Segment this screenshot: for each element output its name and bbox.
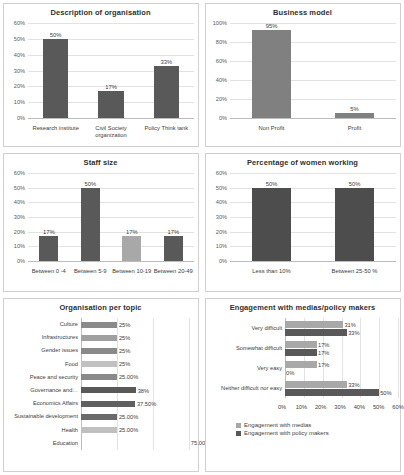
bar-value-label: 17% <box>105 84 117 90</box>
plot-area: Culture25%Infrastructures25%Gender issue… <box>6 318 196 450</box>
bar-row: Very easy17%0% <box>208 358 398 378</box>
legend-item[interactable]: Engagement with policy makers <box>236 430 400 436</box>
category-label: Governance and… <box>6 387 81 394</box>
category-label: Health <box>6 427 81 434</box>
bar-value-label: 17% <box>126 229 138 235</box>
category-label: Neither difficult nor easy <box>208 385 285 392</box>
bar <box>252 30 290 118</box>
y-axis-tick: 10% <box>206 243 227 249</box>
gridline <box>117 437 118 450</box>
bar-row: Peace and security25.00% <box>6 371 196 384</box>
plot-area: 0%20%40%60%80%100%95%5% <box>230 23 396 118</box>
bar-row: Sustainable development25.00% <box>6 410 196 423</box>
bar-value-label: 31% <box>344 322 355 328</box>
bar-value-label: 25% <box>119 335 130 341</box>
category-label: Peace and security <box>6 374 81 381</box>
bar-track: 37.50% <box>81 397 196 410</box>
bar <box>164 236 183 261</box>
bar-row: Economics Affairs37.50% <box>6 397 196 410</box>
y-axis-tick: 100% <box>206 20 227 26</box>
bar <box>285 389 379 396</box>
bar-value-label: 50% <box>380 390 391 396</box>
category-label: Education <box>6 440 81 447</box>
bar-track: 25.00% <box>81 410 196 423</box>
gridline <box>342 338 343 358</box>
bar-track: 25% <box>81 318 196 331</box>
category-label: Sustainable development <box>6 413 81 420</box>
bar-value-label: 37.50% <box>137 401 156 407</box>
gridline <box>379 318 380 338</box>
chart-panel-engagement-with-medias-policy-makers: Engagement with medias/policy makers Ver… <box>202 295 404 475</box>
bar <box>285 341 317 348</box>
bar <box>285 381 347 388</box>
gridline <box>189 384 190 397</box>
bar <box>285 349 317 356</box>
bar-value-label: 25% <box>119 348 130 354</box>
gridline <box>398 358 399 378</box>
chart-panel-percentage-of-women-working: Percentage of women working 0%10%20%30%4… <box>202 150 404 295</box>
gridline <box>153 358 154 371</box>
bar-value-label: 25.00% <box>119 427 138 433</box>
bar <box>81 414 117 420</box>
gridline <box>189 358 190 371</box>
bar-value-label: 17% <box>167 229 179 235</box>
bar <box>285 361 317 368</box>
bar-track: 31%33% <box>285 318 398 338</box>
bar-row: Food25% <box>6 358 196 371</box>
gridline <box>153 344 154 357</box>
plot-area: Very difficult31%33%Somewhat difficult17… <box>208 318 398 398</box>
chart-legend: Engagement with mediasEngagement with po… <box>206 420 400 436</box>
bar-row: Gender issues25% <box>6 344 196 357</box>
y-axis-tick: 0% <box>4 115 25 121</box>
bars-container: 95%5% <box>230 23 396 118</box>
gridline <box>153 437 154 450</box>
bar-track: 25% <box>81 331 196 344</box>
chart-frame: Engagement with medias/policy makers Ver… <box>205 298 401 472</box>
gridline <box>117 424 118 437</box>
chart-frame: Organisation per topic Culture25%Infrast… <box>3 298 199 472</box>
bar-value-label: 50% <box>84 181 96 187</box>
bar-track: 25.00% <box>81 424 196 437</box>
axis-line <box>230 261 396 262</box>
y-axis-tick: 60% <box>4 170 25 176</box>
x-axis-label: Less than 10% <box>230 268 313 275</box>
gridline <box>379 338 380 358</box>
bar <box>81 374 117 380</box>
bar <box>285 321 343 328</box>
gridline <box>153 410 154 423</box>
bar-row: Health25.00% <box>6 424 196 437</box>
x-axis-label: Between 25-50 % <box>313 268 396 275</box>
bar <box>81 387 136 393</box>
legend-item[interactable]: Engagement with medias <box>236 422 400 428</box>
bar-group: 50% <box>313 173 396 261</box>
bar-group: 33% <box>139 23 194 118</box>
gridline <box>117 344 118 357</box>
bar <box>81 322 117 328</box>
gridline <box>117 410 118 423</box>
bar-group: 95% <box>230 23 313 118</box>
bar-group: 17% <box>111 173 153 261</box>
gridline <box>153 331 154 344</box>
x-axis-label: Between 5-9 <box>70 268 112 275</box>
bar-group: 17% <box>28 173 70 261</box>
x-axis-tick: 20% <box>315 404 326 410</box>
gridline <box>189 318 190 331</box>
y-axis-tick: 80% <box>206 39 227 45</box>
bar-row: Culture25% <box>6 318 196 331</box>
bar-value-label: 33% <box>348 382 359 388</box>
bar <box>81 348 117 354</box>
bar <box>335 113 373 118</box>
x-axis-labels: Between 0 -4Between 5-9Between 10-19Betw… <box>28 268 194 275</box>
category-label: Very easy <box>208 365 285 372</box>
x-axis-labels: Non ProfitProfit <box>230 125 396 132</box>
bar <box>81 401 135 407</box>
gridline <box>342 358 343 378</box>
gridline <box>117 318 118 331</box>
bar-value-label: 17% <box>43 229 55 235</box>
y-axis-tick: 20% <box>206 229 227 235</box>
chart-panel-business-model: Business model 0%20%40%60%80%100%95%5% N… <box>202 0 404 150</box>
bar-value-label: 17% <box>318 342 329 348</box>
category-label: Gender issues <box>6 347 81 354</box>
x-axis-labels: Less than 10%Between 25-50 % <box>230 268 396 275</box>
charts-grid: Description of organisation 0%10%20%30%4… <box>0 0 404 475</box>
